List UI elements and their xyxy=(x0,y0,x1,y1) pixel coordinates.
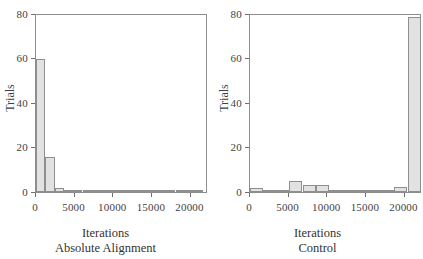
bar-left-2 xyxy=(55,188,64,192)
x-tick-10000-right xyxy=(326,193,327,197)
x-tick-label-15000-right: 15000 xyxy=(343,202,387,213)
bars-container-left xyxy=(36,15,206,192)
x-tick-label-15000-left: 15000 xyxy=(129,202,173,213)
x-tick-20000-right xyxy=(404,193,405,197)
x-tick-5000-left xyxy=(74,193,75,197)
x-tick-label-20000-left: 20000 xyxy=(168,202,212,213)
bar-right-7 xyxy=(342,190,355,192)
x-tick-5000-right xyxy=(288,193,289,197)
bar-right-8 xyxy=(355,190,368,192)
bar-right-12 xyxy=(408,17,421,192)
bar-left-1 xyxy=(45,157,54,192)
bar-left-11 xyxy=(138,190,147,192)
x-tick-label-20000-right: 20000 xyxy=(382,202,423,213)
bar-left-5 xyxy=(83,190,92,192)
y-tick-label-40-left: 40 xyxy=(0,98,28,109)
y-tick-label-20-right: 20 xyxy=(214,142,242,153)
y-tick-label-0-right: 0 xyxy=(214,187,242,198)
x-tick-label-5000-right: 5000 xyxy=(268,202,308,213)
bar-left-15 xyxy=(176,190,185,192)
bar-right-4 xyxy=(303,185,316,192)
bar-right-9 xyxy=(368,190,381,192)
x-tick-10000-left xyxy=(112,193,113,197)
panel-absolute-alignment: Trials 80 60 40 20 0 xyxy=(0,0,211,259)
plot-frame-left xyxy=(35,14,207,193)
x-tick-0-right xyxy=(249,193,250,197)
bar-right-0 xyxy=(250,188,263,192)
bar-right-2 xyxy=(276,190,289,192)
histogram-figure: Trials 80 60 40 20 0 xyxy=(0,0,423,259)
bar-right-6 xyxy=(329,190,342,192)
bar-right-11 xyxy=(394,187,407,193)
y-tick-label-0-left: 0 xyxy=(0,187,28,198)
bar-left-6 xyxy=(92,190,101,192)
x-tick-15000-right xyxy=(365,193,366,197)
x-axis-title-right: Iterations xyxy=(212,226,423,241)
y-tick-label-60-right: 60 xyxy=(214,53,242,64)
bar-right-5 xyxy=(316,185,329,192)
bar-left-16 xyxy=(185,190,194,192)
bar-left-14 xyxy=(166,190,175,192)
x-tick-0-left xyxy=(35,193,36,197)
y-tick-label-40-right: 40 xyxy=(214,98,242,109)
bar-left-8 xyxy=(110,190,119,192)
bar-left-3 xyxy=(64,190,73,192)
bars-container-right xyxy=(250,15,420,192)
panel-caption-right: Control xyxy=(212,241,423,256)
x-tick-label-10000-left: 10000 xyxy=(90,202,134,213)
bar-left-13 xyxy=(157,190,166,192)
y-tick-label-60-left: 60 xyxy=(0,53,28,64)
y-tick-label-80-left: 80 xyxy=(0,9,28,20)
bar-left-7 xyxy=(101,190,110,192)
x-tick-20000-left xyxy=(190,193,191,197)
y-tick-label-20-left: 20 xyxy=(0,142,28,153)
bar-left-0 xyxy=(36,59,45,192)
bar-right-3 xyxy=(289,181,302,192)
bar-right-10 xyxy=(381,190,394,192)
x-tick-label-10000-right: 10000 xyxy=(304,202,348,213)
bar-left-10 xyxy=(129,190,138,192)
bar-left-17 xyxy=(194,190,203,192)
x-axis-title-left: Iterations xyxy=(0,226,211,241)
bar-left-9 xyxy=(120,190,129,192)
bar-left-4 xyxy=(73,190,82,192)
x-tick-label-0-right: 0 xyxy=(229,202,269,213)
x-tick-label-0-left: 0 xyxy=(15,202,55,213)
x-tick-label-5000-left: 5000 xyxy=(54,202,94,213)
plot-frame-right xyxy=(249,14,421,193)
bar-left-12 xyxy=(148,190,157,192)
x-tick-15000-left xyxy=(151,193,152,197)
panel-caption-left: Absolute Alignment xyxy=(0,241,211,256)
panel-control: Trials 80 60 40 20 0 xyxy=(212,0,423,259)
y-tick-label-80-right: 80 xyxy=(214,9,242,20)
bar-right-1 xyxy=(263,190,276,192)
